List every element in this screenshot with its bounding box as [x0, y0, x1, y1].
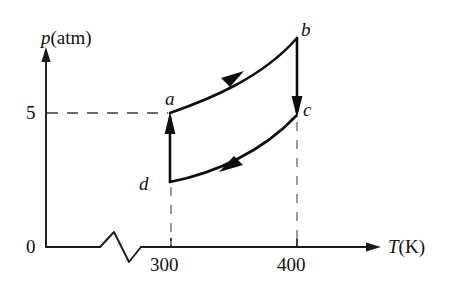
x-axis-label-unit: (K) [399, 236, 425, 257]
y-axis-label: p(atm) [41, 28, 92, 47]
x-axis-break-zigzag-icon [100, 232, 141, 262]
arrow-b-to-c-icon [292, 96, 303, 118]
x-tick-label-400: 400 [277, 255, 306, 274]
x-axis-arrow-icon [366, 242, 381, 251]
process-curve-c-to-d [170, 116, 296, 182]
point-label-c: c [303, 100, 311, 119]
x-axis-label-variable: T [388, 236, 399, 257]
x-tick-label-300: 300 [150, 255, 179, 274]
y-tick-label-0: 0 [26, 237, 36, 256]
y-axis-label-variable: p [41, 27, 51, 48]
y-tick-label-5: 5 [26, 103, 36, 122]
point-label-d: d [139, 174, 149, 193]
y-axis-label-unit: (atm) [51, 27, 92, 48]
arrow-d-to-a-icon [165, 112, 176, 134]
y-axis-arrow-icon [41, 47, 50, 62]
point-label-a: a [165, 89, 175, 108]
cycle-path-group [165, 38, 303, 182]
arrow-a-to-b-icon [221, 71, 244, 87]
x-axis-label: T(K) [388, 237, 425, 256]
pressure-temperature-diagram: p(atm) T(K) 5 0 300 400 a b c d [0, 0, 455, 294]
axis-group [41, 47, 381, 262]
point-label-b: b [301, 20, 311, 39]
